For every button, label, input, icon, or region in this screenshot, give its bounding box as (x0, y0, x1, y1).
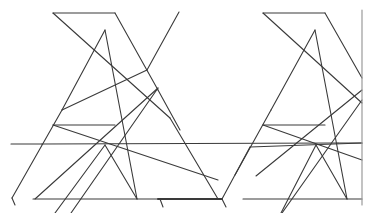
drawing-canvas (0, 0, 373, 213)
line-segment (222, 199, 226, 207)
line-segment (271, 30, 315, 110)
line-segment (42, 143, 338, 144)
geometric-line-drawing (0, 0, 373, 213)
line-segment (71, 88, 158, 213)
line-segment (62, 30, 105, 110)
line-segment (256, 90, 362, 176)
right-triangle-figure (222, 13, 362, 213)
line-segment (12, 110, 62, 198)
line-segment (53, 125, 218, 180)
line-segment (55, 145, 105, 213)
line-segment (160, 199, 163, 207)
left-triangle-figure (11, 12, 218, 213)
line-segment (147, 12, 179, 70)
line-segment (12, 198, 15, 205)
line-segment (115, 13, 158, 90)
line-segment (263, 13, 362, 103)
line-segment (222, 147, 250, 199)
line-segment (105, 30, 137, 199)
line-segment (170, 118, 218, 199)
line-segment (62, 70, 147, 110)
line-segment (281, 145, 316, 213)
line-segment (325, 13, 362, 78)
